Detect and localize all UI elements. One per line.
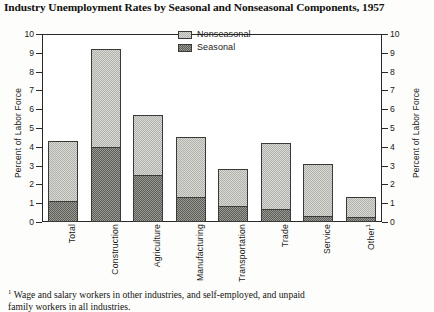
y-axis-right-labels: 012345678910 bbox=[390, 34, 402, 222]
legend-swatch-seasonal bbox=[178, 44, 192, 52]
y-tick-right-6 bbox=[382, 109, 388, 110]
y-tick-label-right-5: 5 bbox=[390, 124, 402, 133]
y-tick-label-right-9: 9 bbox=[390, 49, 402, 58]
y-tick-label-right-0: 0 bbox=[390, 218, 402, 227]
y-tick-label-left-2: 2 bbox=[22, 180, 34, 189]
y-tick-label-right-8: 8 bbox=[390, 67, 402, 76]
bar-segment-seasonal-manufacturing[interactable] bbox=[176, 197, 206, 222]
bar-segment-nonseasonal-total[interactable] bbox=[48, 141, 78, 202]
y-tick-label-right-7: 7 bbox=[390, 86, 402, 95]
chart-legend: NonseasonalSeasonal bbox=[178, 29, 251, 55]
footnote-line-2: family workers in all industries. bbox=[8, 301, 428, 312]
y-tick-right-9 bbox=[382, 53, 388, 54]
y-tick-label-left-6: 6 bbox=[22, 105, 34, 114]
y-tick-right-0 bbox=[382, 222, 388, 223]
y-tick-left-0 bbox=[36, 222, 42, 223]
footnote-line-1: 1 Wage and salary workers in other indus… bbox=[8, 286, 428, 301]
bar-segment-nonseasonal-agriculture[interactable] bbox=[133, 115, 163, 176]
chart-title: Industry Unemployment Rates by Seasonal … bbox=[4, 1, 432, 13]
y-axis-right-ticks bbox=[382, 34, 388, 222]
y-tick-right-10 bbox=[382, 34, 388, 35]
bar-segment-nonseasonal-service[interactable] bbox=[303, 164, 333, 218]
bar-segment-seasonal-agriculture[interactable] bbox=[133, 175, 163, 222]
legend-item-seasonal[interactable]: Seasonal bbox=[178, 42, 251, 53]
bar-segment-seasonal-transportation[interactable] bbox=[218, 206, 248, 222]
y-tick-label-right-1: 1 bbox=[390, 199, 402, 208]
y-tick-right-8 bbox=[382, 72, 388, 73]
bar-segment-nonseasonal-construction[interactable] bbox=[91, 49, 121, 148]
category-footnote-marker: 1 bbox=[365, 224, 371, 228]
bar-segment-nonseasonal-transportation[interactable] bbox=[218, 169, 248, 207]
x-axis-category-labels: TotalConstructionAgricultureManufacturin… bbox=[42, 224, 382, 284]
footnote-text-1: Wage and salary workers in other industr… bbox=[14, 289, 305, 300]
y-axis-right-title: Percent of Labor Force bbox=[411, 83, 421, 183]
bar-segment-seasonal-total[interactable] bbox=[48, 201, 78, 222]
y-tick-label-left-4: 4 bbox=[22, 143, 34, 152]
y-tick-label-right-6: 6 bbox=[390, 105, 402, 114]
legend-label-seasonal: Seasonal bbox=[197, 43, 235, 52]
bar-series-container bbox=[42, 34, 382, 222]
bar-segment-nonseasonal-trade[interactable] bbox=[261, 143, 291, 210]
y-tick-label-right-10: 10 bbox=[390, 30, 402, 39]
y-tick-label-left-3: 3 bbox=[22, 161, 34, 170]
y-tick-label-left-0: 0 bbox=[22, 218, 34, 227]
y-tick-right-4 bbox=[382, 147, 388, 148]
y-tick-label-left-10: 10 bbox=[22, 30, 34, 39]
bar-segment-seasonal-trade[interactable] bbox=[261, 209, 291, 222]
y-tick-label-left-7: 7 bbox=[22, 86, 34, 95]
y-tick-label-left-5: 5 bbox=[22, 124, 34, 133]
y-tick-right-7 bbox=[382, 90, 388, 91]
y-tick-label-left-1: 1 bbox=[22, 199, 34, 208]
legend-label-nonseasonal: Nonseasonal bbox=[197, 30, 251, 39]
y-tick-label-right-3: 3 bbox=[390, 161, 402, 170]
y-tick-label-left-8: 8 bbox=[22, 67, 34, 76]
bar-segment-seasonal-construction[interactable] bbox=[91, 147, 121, 222]
legend-item-nonseasonal[interactable]: Nonseasonal bbox=[178, 29, 251, 40]
y-tick-right-3 bbox=[382, 166, 388, 167]
chart-footnote: 1 Wage and salary workers in other indus… bbox=[8, 286, 428, 312]
footnote-marker: 1 bbox=[8, 288, 11, 295]
y-tick-label-right-2: 2 bbox=[390, 180, 402, 189]
y-tick-right-5 bbox=[382, 128, 388, 129]
y-tick-right-1 bbox=[382, 203, 388, 204]
bar-segment-nonseasonal-other[interactable] bbox=[346, 197, 376, 219]
legend-swatch-nonseasonal bbox=[178, 31, 192, 39]
y-tick-right-2 bbox=[382, 184, 388, 185]
y-tick-label-right-4: 4 bbox=[390, 143, 402, 152]
y-axis-left-labels: 012345678910 bbox=[22, 34, 34, 222]
y-axis-left-title: Percent of Labor Force bbox=[13, 83, 23, 183]
bar-segment-nonseasonal-manufacturing[interactable] bbox=[176, 137, 206, 197]
y-tick-label-left-9: 9 bbox=[22, 49, 34, 58]
